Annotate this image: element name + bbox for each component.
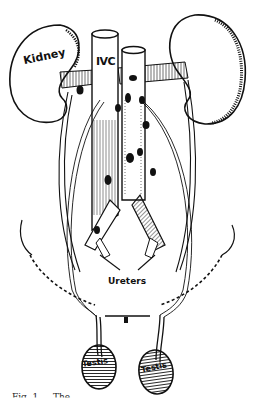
pubic-line [105,316,150,323]
iliac-spines [20,220,234,255]
ivc-label: IVC [96,55,115,68]
anatomy-figure: Kidney IVC Ureters Testis Testis Fig. 1_… [0,0,254,399]
aorta [122,47,145,201]
ureters-label: Ureters [108,276,146,286]
